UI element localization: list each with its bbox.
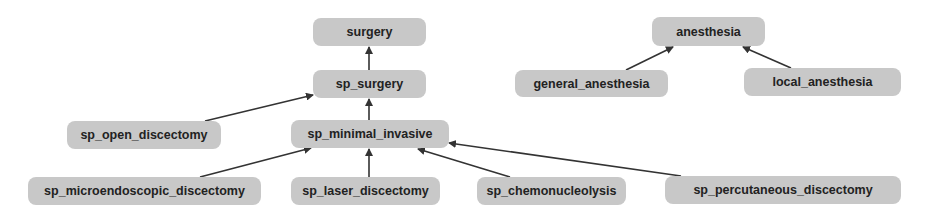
node-sp-open-discectomy: sp_open_discectomy: [67, 121, 221, 149]
node-local-anesthesia: local_anesthesia: [744, 68, 901, 96]
edge-sp-chemonucleolysis-to-sp-minimal-invasive: [418, 149, 510, 177]
node-surgery: surgery: [313, 18, 426, 46]
node-general-anesthesia: general_anesthesia: [515, 70, 668, 97]
edge-local-anesthesia-to-anesthesia: [743, 47, 791, 68]
node-sp-chemonucleolysis: sp_chemonucleolysis: [477, 177, 626, 205]
edge-sp-microendoscopic-discectomy-to-sp-minimal-invasive: [200, 148, 311, 177]
edge-sp-open-discectomy-to-sp-surgery: [205, 95, 313, 121]
node-sp-laser-discectomy: sp_laser_discectomy: [291, 177, 440, 205]
edge-sp-percutaneous-discectomy-to-sp-minimal-invasive: [449, 143, 681, 176]
node-sp-percutaneous-discectomy: sp_percutaneous_discectomy: [665, 176, 901, 204]
ontology-diagram: surgerysp_surgeryanesthesiageneral_anest…: [0, 0, 931, 217]
node-sp-minimal-invasive: sp_minimal_invasive: [291, 120, 449, 148]
node-anesthesia: anesthesia: [652, 17, 765, 46]
node-sp-microendoscopic-discectomy: sp_microendoscopic_discectomy: [28, 177, 261, 205]
node-sp-surgery: sp_surgery: [313, 70, 426, 98]
edge-general-anesthesia-to-anesthesia: [626, 47, 673, 70]
